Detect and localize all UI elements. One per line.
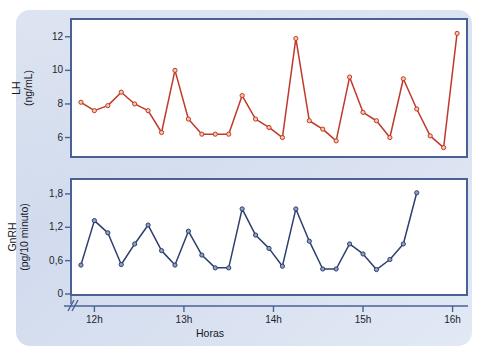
x-tick-label: 12h [76, 315, 112, 325]
lh-ytick-label: 10 [38, 65, 63, 75]
x-tick-label: 16h [435, 315, 471, 325]
gnrh-ytick-label: 1,2 [36, 222, 63, 232]
lh-ytick-label: 8 [38, 99, 63, 109]
x-tick-label: 15h [345, 315, 381, 325]
x-tick-label: 13h [166, 315, 202, 325]
gnrh-ytick-label: 0,6 [36, 256, 63, 266]
axes-decoration-svg [0, 0, 488, 356]
lh-ytick-label: 6 [38, 133, 63, 143]
x-axis-title: Horas [60, 327, 360, 339]
lh-ytick-label: 12 [38, 32, 63, 42]
gnrh-ytick-label: 0 [36, 289, 63, 299]
gnrh-ytick-label: 1,8 [36, 189, 63, 199]
figure-root: LH (ng/mL) GnRH (pg/10 minuto) 68101200,… [0, 0, 488, 356]
x-axis-title-text: Horas [196, 327, 224, 339]
x-tick-label: 14h [255, 315, 291, 325]
